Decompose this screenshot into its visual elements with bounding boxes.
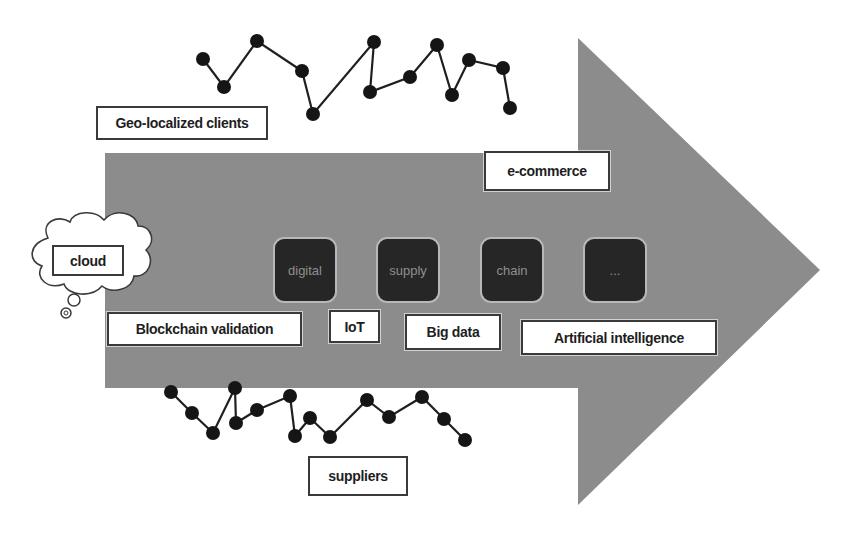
- big-data-label: Big data: [405, 314, 501, 350]
- ecommerce-label: e-commerce: [484, 151, 610, 191]
- network-node: [360, 393, 374, 407]
- artificial-intelligence-label: Artificial intelligence: [521, 320, 717, 355]
- network-node: [445, 88, 459, 102]
- network-node: [196, 52, 210, 66]
- suppliers-network: [164, 381, 472, 447]
- network-node: [250, 34, 264, 48]
- network-node: [303, 411, 317, 425]
- tile-ellipsis: ...: [583, 237, 647, 303]
- blockchain-validation-label: Blockchain validation: [107, 312, 302, 346]
- network-node: [462, 53, 476, 67]
- network-node: [403, 70, 417, 84]
- network-node: [367, 35, 381, 49]
- iot-label: IoT: [329, 310, 380, 343]
- network-node: [382, 410, 396, 424]
- network-node: [430, 38, 444, 52]
- network-node: [283, 389, 297, 403]
- network-node: [437, 412, 451, 426]
- cloud-label: cloud: [52, 245, 124, 276]
- network-node: [415, 390, 429, 404]
- network-node: [306, 107, 320, 121]
- network-node: [228, 381, 242, 395]
- network-node: [288, 429, 302, 443]
- network-node: [363, 85, 377, 99]
- tile-label: ...: [610, 263, 621, 278]
- suppliers-label: suppliers: [308, 456, 408, 496]
- tile-label: chain: [496, 263, 527, 278]
- network-node: [229, 416, 243, 430]
- network-node: [217, 80, 231, 94]
- network-node: [323, 430, 337, 444]
- network-node: [250, 403, 264, 417]
- tile-label: supply: [389, 263, 427, 278]
- network-node: [496, 61, 510, 75]
- network-node: [185, 406, 199, 420]
- tile-label: digital: [288, 263, 322, 278]
- tile-digital: digital: [273, 237, 337, 303]
- network-node: [295, 64, 309, 78]
- network-node: [206, 426, 220, 440]
- supply-chain-diagram: Geo-localized clients e-commerce cloud B…: [0, 0, 853, 534]
- network-edges: [203, 41, 510, 114]
- geo-localized-clients-label: Geo-localized clients: [96, 106, 268, 140]
- network-node: [458, 433, 472, 447]
- tile-chain: chain: [480, 237, 544, 303]
- network-node: [164, 385, 178, 399]
- tile-supply: supply: [376, 237, 440, 303]
- network-node: [503, 101, 517, 115]
